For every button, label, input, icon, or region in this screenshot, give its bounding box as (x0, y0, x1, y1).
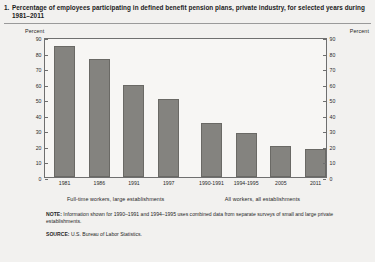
bar-1994-1995 (236, 133, 257, 177)
y-tick-label-right-50: 50 (330, 98, 336, 104)
x-tick-label-2011: 2011 (294, 180, 338, 186)
y-tick-label-left-90: 90 (36, 36, 42, 42)
note-text: Information shown for 1990–1991 and 1994… (46, 211, 333, 224)
figure-title: 1. Percentage of employees participating… (4, 4, 369, 20)
chart-page: 1. Percentage of employees participating… (0, 0, 375, 262)
y-tick-mark (323, 55, 326, 56)
y-tick-mark (45, 101, 48, 102)
y-tick-label-left-30: 30 (36, 129, 42, 135)
y-tick-label-left-0: 0 (39, 176, 42, 182)
y-tick-label-left-40: 40 (36, 114, 42, 120)
y-tick-mark (45, 55, 48, 56)
y-tick-mark (45, 70, 48, 71)
y-tick-mark (45, 117, 48, 118)
y-tick-label-left-60: 60 (36, 83, 42, 89)
y-tick-mark (45, 86, 48, 87)
y-tick-mark (323, 117, 326, 118)
figure-number: 1. (4, 4, 9, 12)
bar-1991 (123, 85, 144, 177)
plot-area: 00101020203030404050506060707080809090 1… (44, 38, 327, 178)
y-tick-label-right-70: 70 (330, 67, 336, 73)
bar-2005 (270, 146, 291, 177)
y-tick-label-right-40: 40 (330, 114, 336, 120)
y-tick-label-right-60: 60 (330, 83, 336, 89)
y-tick-mark (323, 86, 326, 87)
figure-title-text: Percentage of employees participating in… (12, 4, 369, 20)
y-tick-label-right-30: 30 (330, 129, 336, 135)
y-tick-label-right-80: 80 (330, 52, 336, 58)
y-tick-mark (45, 148, 48, 149)
y-tick-mark (323, 132, 326, 133)
note-label: NOTE: (46, 211, 62, 217)
source-label: SOURCE: (46, 231, 70, 237)
y-tick-label-right-20: 20 (330, 145, 336, 151)
y-axis-caption-left: Percent (25, 28, 44, 34)
y-tick-mark (45, 39, 48, 40)
bar-1981 (54, 46, 75, 177)
y-tick-label-right-90: 90 (330, 36, 336, 42)
figure-note: NOTE: Information shown for 1990–1991 an… (46, 211, 357, 224)
y-tick-label-left-70: 70 (36, 67, 42, 73)
y-tick-mark (323, 101, 326, 102)
y-tick-mark (45, 163, 48, 164)
bars-layer (45, 39, 326, 177)
group-label-2: All workers, all establishments (192, 196, 332, 202)
bar-1990-1991 (201, 123, 222, 177)
y-tick-label-right-10: 10 (330, 160, 336, 166)
y-tick-mark (323, 70, 326, 71)
y-tick-label-left-50: 50 (36, 98, 42, 104)
y-tick-label-left-10: 10 (36, 160, 42, 166)
y-tick-mark (45, 132, 48, 133)
y-tick-label-left-20: 20 (36, 145, 42, 151)
y-tick-label-left-80: 80 (36, 52, 42, 58)
source-text: U.S. Bureau of Labor Statistics. (71, 231, 142, 237)
y-tick-mark (323, 39, 326, 40)
figure-source: SOURCE: U.S. Bureau of Labor Statistics. (46, 231, 357, 238)
x-tick-label-1997: 1997 (147, 180, 191, 186)
title-divider (4, 23, 371, 24)
y-tick-mark (323, 148, 326, 149)
y-tick-mark (323, 163, 326, 164)
y-axis-caption-right: Percent (350, 28, 369, 34)
bar-1997 (158, 99, 179, 177)
group-label-1: Full-time workers, large establishments (46, 196, 186, 202)
bar-1986 (89, 59, 110, 177)
